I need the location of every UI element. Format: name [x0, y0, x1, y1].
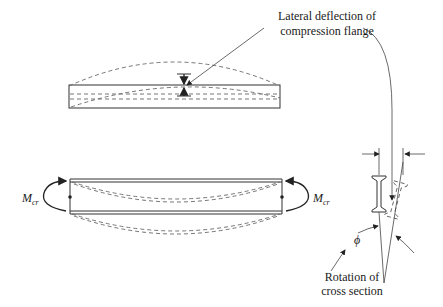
- label-lateral-deflection-line2: compression flange: [280, 24, 374, 38]
- label-rotation-line2: cross section: [321, 284, 383, 298]
- right-support-dot: [280, 195, 284, 199]
- leader-line-lateral-deflection: [187, 28, 264, 85]
- label-phi: ϕ: [354, 233, 360, 247]
- lateral-torsional-buckling-diagram: Lateral deflection of compression flange…: [0, 0, 443, 307]
- label-lateral-deflection-line1: Lateral deflection of: [278, 9, 376, 23]
- label-rotation-line1: Rotation of: [325, 270, 379, 284]
- left-moment-arrow-icon: [43, 181, 66, 211]
- left-support-dot: [68, 195, 72, 199]
- elevation-view-beam: [43, 179, 308, 234]
- label-mcr-left: Mcr: [21, 191, 40, 207]
- leader-line-to-section: [363, 28, 392, 200]
- i-section-original: [372, 176, 387, 212]
- plan-view-beam: [69, 28, 280, 108]
- cross-section: [331, 148, 425, 283]
- label-mcr-right: Mcr: [312, 191, 331, 207]
- deflected-flange-arc: [69, 62, 280, 86]
- beam-outline-top: [69, 85, 280, 108]
- i-section-rotated: [384, 181, 407, 220]
- right-moment-arrow-icon: [286, 181, 309, 211]
